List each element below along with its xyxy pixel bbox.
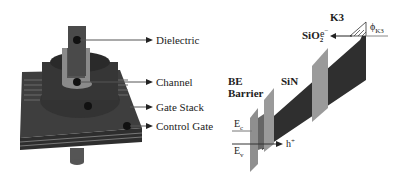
diagram: Dielectric Channel Gate Stack Control Ga… <box>0 0 398 182</box>
ec-sub: c <box>240 124 243 132</box>
diagram-graphics <box>0 0 398 182</box>
label-dielectric: Dielectric <box>156 35 199 46</box>
device-3d <box>20 26 153 165</box>
label-hole: h+ <box>286 138 295 149</box>
label-be: BE <box>228 76 243 87</box>
label-channel: Channel <box>156 77 193 88</box>
sio2-text: SiO <box>302 29 320 41</box>
label-ev: Ev <box>234 146 244 159</box>
label-gate-stack: Gate Stack <box>156 102 204 113</box>
phi-sub: K3 <box>375 27 384 35</box>
label-ec: Ec <box>234 119 243 132</box>
label-k3: K3 <box>330 12 344 23</box>
hole-sup: + <box>291 137 295 145</box>
label-control-gate: Control Gate <box>156 121 213 132</box>
label-barrier: Barrier <box>228 88 263 99</box>
ev-sub: v <box>240 151 244 159</box>
label-electron: e− <box>320 28 328 39</box>
label-phi-k3: ϕK3 <box>370 22 384 35</box>
label-sin: SiN <box>281 76 298 87</box>
electron-sup: − <box>324 27 328 35</box>
